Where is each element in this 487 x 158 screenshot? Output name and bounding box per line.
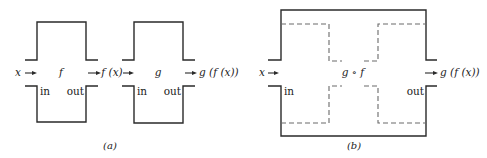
composite-in-label: in	[284, 85, 294, 97]
box-f-out-label: out	[67, 85, 85, 97]
composite-input-arrow-icon	[268, 71, 279, 75]
input-g-arrow-icon	[123, 71, 134, 75]
input-arrow-icon	[25, 71, 37, 75]
box-f-in-label: in	[40, 85, 50, 97]
composite-output-label: g (f (x))	[440, 66, 480, 78]
box-g-in-label: in	[137, 85, 147, 97]
composite-out-label: out	[407, 85, 425, 97]
input-x-label: x	[15, 66, 21, 78]
box-f-lower-outline	[25, 86, 98, 122]
function-composition-diagram: f in out x f (x) g in out	[0, 0, 487, 158]
box-g-upper-outline	[122, 22, 195, 60]
function-box-f: f in out	[25, 22, 98, 122]
output-g-arrow-icon	[185, 71, 197, 75]
composite-output-arrow-icon	[425, 71, 438, 75]
intermediate-fx-label: f (x)	[100, 66, 122, 78]
caption-a: (a)	[103, 140, 117, 151]
function-box-g: g in out	[122, 22, 195, 123]
box-g-label: g	[155, 66, 162, 78]
box-f-upper-outline	[25, 22, 98, 60]
figure-a: f in out x f (x) g in out	[15, 22, 239, 151]
box-g-out-label: out	[164, 85, 182, 97]
output-f-arrow-icon	[88, 71, 101, 75]
caption-b: (b)	[347, 140, 361, 151]
box-g-lower-outline	[122, 86, 195, 123]
figure-b: x g ∘ f in out g (f (x)) (b)	[259, 10, 480, 151]
output-gfx-label: g (f (x))	[199, 66, 239, 78]
inner-g-dashed-upper	[364, 24, 426, 61]
composite-box-upper-outline	[268, 10, 437, 60]
composite-input-x-label: x	[259, 66, 265, 78]
box-f-label: f	[58, 66, 65, 78]
inner-f-dashed-upper	[281, 24, 342, 61]
composite-function-label: g ∘ f	[342, 66, 367, 78]
